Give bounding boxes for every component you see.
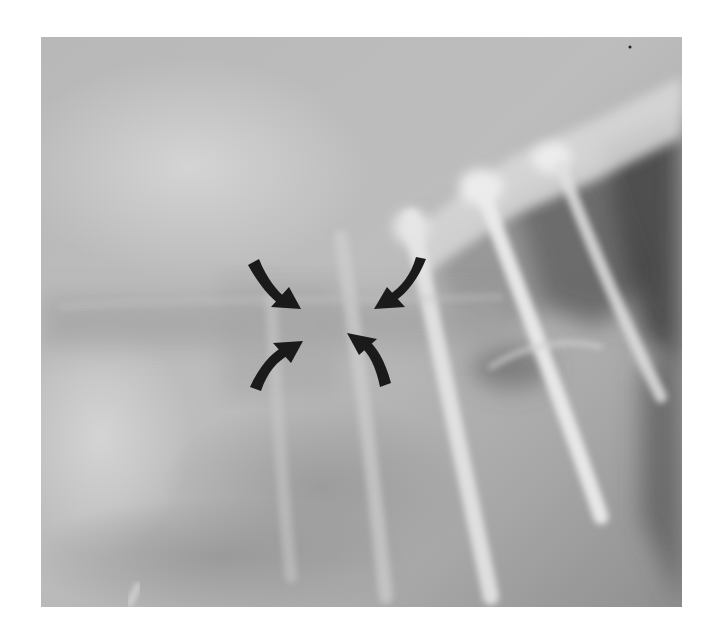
radiograph-svg [41,37,682,607]
film-speck [629,46,632,49]
radiograph-image [41,37,682,607]
